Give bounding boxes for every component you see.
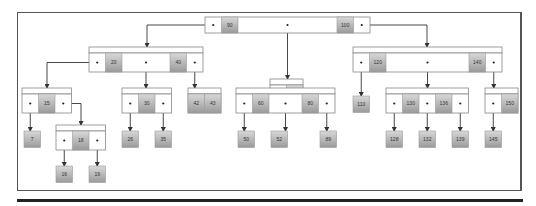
leaf-key-label: 128 bbox=[390, 136, 399, 142]
leaf-key-label: 139 bbox=[456, 136, 465, 142]
tree-node-n-18: 18 bbox=[56, 125, 106, 150]
tree-node-n-30: 30 bbox=[122, 88, 172, 113]
key-label: 42 bbox=[193, 100, 199, 106]
pointer-dot bbox=[493, 61, 495, 63]
leaf-node-leaf-52: 52 bbox=[271, 131, 288, 148]
leaf-node-leaf-110: 110 bbox=[353, 96, 370, 113]
leaf-key-label: 89 bbox=[325, 136, 331, 142]
pointer-dot bbox=[96, 139, 98, 141]
leaf-node-leaf-128: 128 bbox=[386, 131, 403, 148]
leaf-node-leaf-89: 89 bbox=[320, 131, 337, 148]
node-header bbox=[22, 88, 72, 94]
key-label: 80 bbox=[307, 100, 313, 106]
pointer-dot bbox=[492, 102, 494, 104]
leaf-key-label: 35 bbox=[160, 136, 166, 142]
tree-node-n-42-43: 4243 bbox=[188, 88, 221, 113]
tree-node-root: 90100 bbox=[205, 17, 370, 33]
tree-node-n-150: 150 bbox=[485, 88, 518, 113]
leaf-key-label: 26 bbox=[127, 136, 133, 142]
tree-node-n-15: 15 bbox=[22, 88, 72, 113]
pointer-dot bbox=[63, 139, 65, 141]
tree-node-n-120-140: 120140 bbox=[353, 47, 502, 72]
leaf-node-leaf-19: 19 bbox=[89, 166, 106, 183]
leaf-key-label: 145 bbox=[489, 136, 498, 142]
key-label: 90 bbox=[227, 22, 233, 28]
leaf-node-leaf-50: 50 bbox=[238, 131, 255, 148]
tree-node-n-60-80: 6080 bbox=[236, 88, 335, 113]
node-header bbox=[353, 47, 502, 53]
tree-node-n-20-40: 2040 bbox=[89, 47, 203, 72]
pointer-dot bbox=[194, 61, 196, 63]
key-label: 60 bbox=[258, 100, 264, 106]
key-label: 150 bbox=[506, 100, 515, 106]
node-header bbox=[485, 88, 518, 94]
key-label: 30 bbox=[144, 100, 150, 106]
node-header bbox=[270, 79, 303, 85]
pointer-dot bbox=[29, 102, 31, 104]
key-label: 40 bbox=[175, 59, 181, 65]
leaf-node-leaf-16: 16 bbox=[56, 166, 73, 183]
leaf-node-leaf-26: 26 bbox=[122, 131, 139, 148]
node-header bbox=[188, 88, 221, 94]
pointer-dot bbox=[426, 102, 428, 104]
key-label: 20 bbox=[111, 59, 117, 65]
leaf-node-leaf-132: 132 bbox=[419, 131, 436, 148]
pointer-dot bbox=[426, 61, 428, 63]
leaf-node-leaf-145: 145 bbox=[485, 131, 502, 148]
leaf-key-label: 7 bbox=[31, 136, 34, 142]
tree-edge bbox=[362, 25, 427, 47]
pointer-dot bbox=[286, 24, 288, 26]
leaf-key-label: 110 bbox=[357, 101, 365, 107]
pointer-dot bbox=[326, 102, 328, 104]
b-tree-diagram: 9010020407512014015304243608013013615018… bbox=[0, 0, 536, 206]
key-label: 130 bbox=[407, 100, 416, 106]
pointer-dot bbox=[96, 61, 98, 63]
pointer-dot bbox=[360, 61, 362, 63]
leaf-key-label: 16 bbox=[61, 171, 67, 177]
pointer-dot bbox=[459, 102, 461, 104]
pointer-dot bbox=[212, 24, 214, 26]
pointer-dot bbox=[129, 102, 131, 104]
key-label: 15 bbox=[44, 100, 50, 106]
pointer-dot bbox=[162, 102, 164, 104]
pointer-dot bbox=[361, 24, 363, 26]
key-label: 100 bbox=[341, 22, 350, 28]
node-header bbox=[89, 47, 203, 53]
leaf-key-label: 19 bbox=[94, 171, 100, 177]
tree-edge bbox=[147, 25, 213, 47]
pointer-dot bbox=[145, 61, 147, 63]
leaf-node-leaf-7: 7 bbox=[24, 131, 41, 148]
pointer-dot bbox=[243, 102, 245, 104]
node-header bbox=[122, 88, 172, 94]
node-header bbox=[386, 88, 469, 94]
leaf-key-label: 50 bbox=[243, 136, 249, 142]
key-label: 120 bbox=[374, 59, 383, 65]
leaf-key-label: 52 bbox=[276, 136, 282, 142]
leaf-node-leaf-139: 139 bbox=[452, 131, 469, 148]
node-header bbox=[56, 125, 106, 131]
key-label: 140 bbox=[473, 59, 482, 65]
node-header bbox=[236, 88, 335, 94]
key-label: 18 bbox=[78, 137, 84, 143]
pointer-dot bbox=[393, 102, 395, 104]
pointer-dot bbox=[284, 102, 286, 104]
leaf-key-label: 132 bbox=[423, 136, 432, 142]
pointer-dot bbox=[62, 102, 64, 104]
key-label: 43 bbox=[210, 100, 216, 106]
key-label: 136 bbox=[440, 100, 449, 106]
tree-node-n-130-136: 130136 bbox=[386, 88, 469, 113]
leaf-node-leaf-35: 35 bbox=[155, 131, 172, 148]
